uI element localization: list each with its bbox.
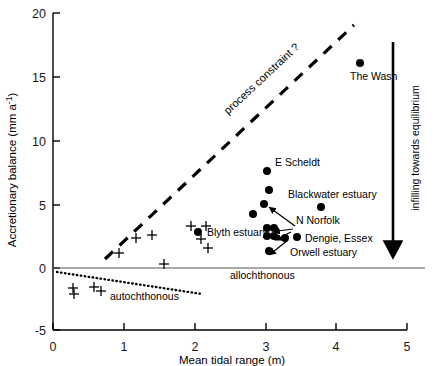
point-n-norfolk-b [270, 224, 278, 232]
axis-x [53, 323, 407, 330]
chart-canvas: 20 15 10 5 0 -5 0 1 2 3 4 5 Mean tidal r… [0, 0, 444, 366]
plus-marker [186, 221, 196, 231]
point-blyth [194, 228, 202, 236]
ytick-label-10: 10 [32, 135, 46, 149]
ytick-label-5: 5 [39, 199, 46, 213]
ytick-label-0: 0 [39, 262, 46, 276]
plus-marker [131, 233, 141, 243]
point-the-wash [356, 59, 364, 67]
annotation-process-constraint: process constraint ? [221, 41, 301, 117]
point-unlabeled-2 [260, 200, 268, 208]
point-unlabeled-3 [249, 210, 257, 218]
point-orwell [265, 247, 273, 255]
svg-text:Accretionary balance (mm a-1): Accretionary balance (mm a-1) [4, 93, 18, 248]
leader-n-norfolk-2 [278, 229, 293, 231]
y-axis-label: Accretionary balance (mm a-1) [4, 93, 18, 248]
plus-marker [147, 230, 157, 240]
plus-marker [68, 283, 78, 293]
label-blackwater: Blackwater estuary [288, 188, 377, 200]
plus-marker [203, 243, 213, 253]
label-e-scheldt: E Scheldt [275, 156, 320, 168]
annotation-infilling: infilling towards equilibrium [409, 85, 421, 211]
label-the-wash: The Wash [350, 70, 398, 82]
plus-marker [114, 248, 124, 258]
y-axis-label-main: Accretionary balance (mm a [6, 104, 18, 248]
point-dengie-b [293, 233, 301, 241]
label-blyth: Blyth estuary [207, 226, 268, 238]
label-n-norfolk: N Norfolk [296, 214, 341, 226]
annotation-process-constraint-text: process constraint ? [221, 41, 301, 117]
figure-scatter-accretionary-balance: 20 15 10 5 0 -5 0 1 2 3 4 5 Mean tidal r… [0, 0, 444, 366]
annotation-allochthonous: allochthonous [230, 269, 295, 281]
point-unlabeled-1 [265, 186, 273, 194]
plus-marker [69, 289, 79, 299]
axis-y [53, 13, 60, 330]
xtick-label-5: 5 [404, 340, 411, 354]
annotation-autochthonous: autochthonous [110, 290, 179, 302]
xtick-label-0: 0 [50, 340, 57, 354]
y-axis-label-tail: ) [6, 93, 18, 97]
point-e-scheldt [263, 167, 271, 175]
xtick-label-4: 4 [333, 340, 340, 354]
point-blackwater [317, 203, 325, 211]
ytick-label-20: 20 [32, 7, 46, 21]
xtick-label-1: 1 [121, 340, 128, 354]
label-orwell: Orwell estuary [290, 246, 358, 258]
x-axis-label: Mean tidal range (m) [179, 354, 285, 366]
xtick-label-3: 3 [263, 340, 270, 354]
xtick-label-2: 2 [192, 340, 199, 354]
label-dengie: Dengie, Essex [305, 232, 373, 244]
plus-markers-group [68, 221, 213, 299]
leader-orwell [273, 240, 288, 252]
point-n-norfolk-d [270, 232, 278, 240]
ytick-label-minus5: -5 [35, 324, 46, 338]
leader-n-norfolk-1 [273, 210, 295, 226]
ytick-label-15: 15 [32, 71, 46, 85]
annotation-infilling-text: infilling towards equilibrium [409, 85, 421, 211]
